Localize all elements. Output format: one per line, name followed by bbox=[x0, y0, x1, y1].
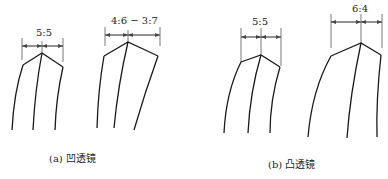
caption-panel-a: (a) 凹透镜 bbox=[49, 154, 96, 164]
panel-b-shape-1 bbox=[224, 28, 281, 133]
panel-a-shape-2 bbox=[97, 27, 160, 130]
ratio-label-b1: 5:5 bbox=[252, 17, 268, 27]
caption-panel-b: (b) 凸透镜 bbox=[268, 160, 315, 170]
lens-cutting-diagram: 5:5 4:6 − 3:7 5:5 6:4 (a) 凹透镜 (b) 凸透镜 bbox=[0, 0, 388, 179]
ratio-label-a2: 4:6 − 3:7 bbox=[111, 16, 158, 26]
panel-b-shape-2 bbox=[308, 14, 382, 138]
panel-a-shape-1 bbox=[12, 38, 63, 130]
ratio-label-b2: 6:4 bbox=[352, 4, 368, 14]
ratio-label-a1: 5:5 bbox=[36, 28, 52, 38]
